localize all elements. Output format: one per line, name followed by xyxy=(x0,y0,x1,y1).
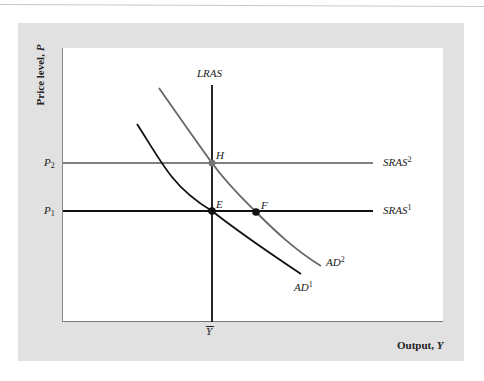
y-axis-label: Price level, P xyxy=(34,45,46,106)
x-axis-label: Output, Y xyxy=(397,339,443,351)
point-f-label: F xyxy=(261,199,268,211)
sras2-label: SRAS2 xyxy=(383,156,411,168)
p2-tick-label: P2 xyxy=(44,156,55,168)
lras-label: LRAS xyxy=(197,67,222,79)
point-e-marker xyxy=(208,207,216,215)
point-h-marker xyxy=(209,160,216,167)
sras1-label: SRAS1 xyxy=(383,204,411,216)
point-e-label: E xyxy=(216,198,223,210)
point-h-label: H xyxy=(216,149,224,161)
point-f-marker xyxy=(252,208,260,216)
p1-tick-label: P1 xyxy=(44,204,55,216)
chart-svg xyxy=(0,0,484,381)
ad2-label: AD2 xyxy=(326,256,345,268)
ad1-label: AD1 xyxy=(294,281,313,293)
y-bar-tick-label: Y xyxy=(206,325,212,337)
ad2-curve xyxy=(159,88,321,266)
